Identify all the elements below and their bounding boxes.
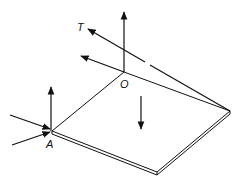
label-t: T xyxy=(77,21,85,33)
plate-force-diagram: T O A xyxy=(0,0,239,182)
force-a-in-arrow-1 xyxy=(10,115,50,129)
label-o: O xyxy=(120,78,129,90)
label-a: A xyxy=(45,138,53,150)
force-o-horizontal-arrow xyxy=(81,56,124,72)
force-a-in-arrow-2 xyxy=(12,132,50,145)
diagram-canvas: T O A xyxy=(0,0,239,182)
